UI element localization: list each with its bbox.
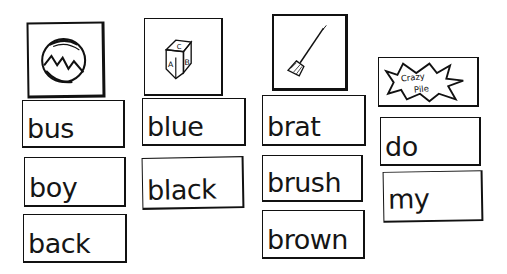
word-text: bus xyxy=(27,115,74,142)
abc-block-icon: C A B xyxy=(145,19,221,94)
svg-text:A: A xyxy=(168,60,174,69)
word-text: blue xyxy=(147,113,203,140)
word-text: back xyxy=(28,230,90,257)
word-card[interactable]: black xyxy=(142,156,245,210)
picture-card-ball[interactable] xyxy=(26,21,105,98)
word-text: brown xyxy=(267,226,348,253)
word-text: do xyxy=(385,133,418,160)
crazy-pile-burst-icon: Crazy Pile xyxy=(379,58,477,105)
picture-card-broom[interactable] xyxy=(272,14,348,91)
word-card[interactable]: do xyxy=(380,117,481,166)
picture-card-block[interactable]: C A B xyxy=(144,18,223,96)
word-text: brat xyxy=(267,113,320,140)
svg-text:Pile: Pile xyxy=(414,83,430,94)
svg-text:C: C xyxy=(177,43,182,51)
picture-card-crazy-pile[interactable]: Crazy Pile xyxy=(378,57,479,107)
word-text: brush xyxy=(267,169,341,196)
ball-icon xyxy=(29,24,103,96)
svg-text:Crazy: Crazy xyxy=(400,71,425,83)
word-card[interactable]: brown xyxy=(262,210,365,259)
word-card[interactable]: brush xyxy=(262,155,363,202)
word-text: black xyxy=(147,176,217,204)
word-card[interactable]: bus xyxy=(22,100,125,148)
word-card[interactable]: brat xyxy=(262,95,366,146)
word-card[interactable]: my xyxy=(383,170,484,223)
word-text: boy xyxy=(29,174,77,201)
word-card[interactable]: back xyxy=(23,214,127,263)
svg-text:B: B xyxy=(184,58,189,67)
broom-icon xyxy=(274,16,345,88)
word-card[interactable]: boy xyxy=(24,157,126,207)
word-text: my xyxy=(388,185,430,213)
word-card[interactable]: blue xyxy=(142,98,246,146)
